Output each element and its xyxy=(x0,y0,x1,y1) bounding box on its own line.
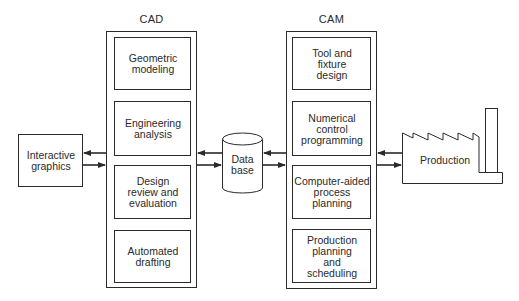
cad-title: CAD xyxy=(106,13,197,25)
cam-module-process-planning: Computer-aided process planning xyxy=(293,166,371,219)
cam-module-nc-programming: Numerical control programming xyxy=(293,102,371,156)
interactive-graphics-label: Interactive graphics xyxy=(19,135,83,187)
cam-title: CAM xyxy=(286,13,377,25)
production-label: Production xyxy=(410,148,480,172)
cad-module-engineering-analysis: Engineering analysis xyxy=(115,102,191,156)
cam-module-tool-fixture-design: Tool and fixture design xyxy=(293,38,371,90)
database-label: Data base xyxy=(222,147,263,183)
factory-icon xyxy=(403,109,503,184)
cad-module-design-review: Design review and evaluation xyxy=(115,166,191,219)
cad-module-automated-drafting: Automated drafting xyxy=(115,231,191,283)
cam-module-production-planning: Production planning and scheduling xyxy=(293,230,371,283)
cad-module-geometric-modeling: Geometric modeling xyxy=(115,38,191,90)
